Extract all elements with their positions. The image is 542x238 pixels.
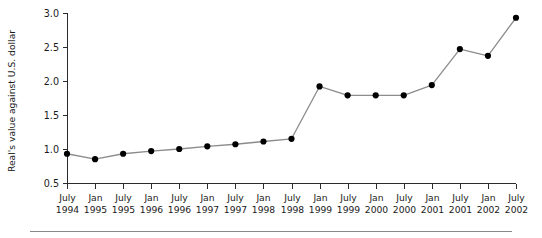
real-exchange-rate-line-chart: Real's value against U.S. dollar 0.51.01… (0, 0, 542, 238)
data-point (513, 15, 519, 21)
x-tick-label-year: 1995 (112, 204, 136, 215)
data-point (260, 138, 266, 144)
y-tick-label: 0.5 (44, 178, 59, 189)
y-axis-tick-labels: 0.51.01.52.02.53.0 (44, 8, 59, 189)
x-tick-label-month: Jan (480, 192, 495, 203)
x-tick-label-year: 2000 (365, 204, 389, 215)
data-point (485, 53, 491, 59)
x-axis-tick-labels: July1994Jan1995July1995Jan1996July1996Ja… (56, 192, 528, 215)
x-tick-label-month: July (114, 192, 132, 203)
y-tick-label: 3.0 (44, 8, 59, 19)
x-tick-label-month: July (507, 192, 525, 203)
data-point (316, 83, 322, 89)
data-point (148, 148, 154, 154)
x-tick-label-year: 1997 (196, 204, 220, 215)
y-tick-label: 1.5 (44, 110, 59, 121)
series-data-points (64, 15, 519, 163)
y-axis-tick-marks (63, 14, 67, 184)
chart-figure: Real's value against U.S. dollar 0.51.01… (0, 0, 542, 238)
x-tick-label-month: July (226, 192, 244, 203)
data-point (64, 151, 70, 157)
x-tick-label-month: July (451, 192, 469, 203)
x-tick-label-year: 2002 (477, 204, 500, 215)
x-tick-label-year: 1995 (84, 204, 108, 215)
x-tick-label-month: Jan (143, 192, 158, 203)
x-tick-label-year: 1997 (224, 204, 248, 215)
data-point (92, 156, 98, 162)
x-tick-label-year: 1999 (309, 204, 333, 215)
x-tick-label-month: July (395, 192, 413, 203)
x-tick-label-year: 1994 (56, 204, 80, 215)
x-tick-label-month: Jan (312, 192, 327, 203)
x-tick-label-year: 2001 (421, 204, 444, 215)
x-tick-label-year: 1996 (140, 204, 164, 215)
x-tick-label-year: 2002 (505, 204, 528, 215)
data-point (429, 82, 435, 88)
x-tick-label-year: 2001 (449, 204, 472, 215)
y-tick-label: 1.0 (44, 144, 59, 155)
x-tick-label-month: July (339, 192, 357, 203)
x-tick-label-month: Jan (255, 192, 270, 203)
y-axis-title: Real's value against U.S. dollar (6, 30, 17, 172)
x-tick-label-month: July (170, 192, 188, 203)
y-tick-label: 2.0 (44, 76, 59, 87)
x-tick-label-month: Jan (424, 192, 439, 203)
x-tick-label-year: 1998 (281, 204, 305, 215)
x-axis-tick-marks (68, 184, 517, 189)
data-point (345, 92, 351, 98)
data-point (204, 143, 210, 149)
x-tick-label-month: July (283, 192, 301, 203)
data-point (401, 92, 407, 98)
x-tick-label-year: 2000 (393, 204, 417, 215)
x-tick-label-month: Jan (199, 192, 214, 203)
data-point (457, 46, 463, 52)
x-tick-label-year: 1998 (252, 204, 276, 215)
data-point (288, 136, 294, 142)
x-tick-label-month: July (58, 192, 76, 203)
x-tick-label-year: 1999 (337, 204, 361, 215)
data-point (120, 151, 126, 157)
data-point (176, 146, 182, 152)
data-point (373, 92, 379, 98)
x-tick-label-month: Jan (87, 192, 102, 203)
x-tick-label-year: 1996 (168, 204, 192, 215)
data-point (232, 141, 238, 147)
x-tick-label-month: Jan (368, 192, 383, 203)
y-tick-label: 2.5 (44, 42, 59, 53)
